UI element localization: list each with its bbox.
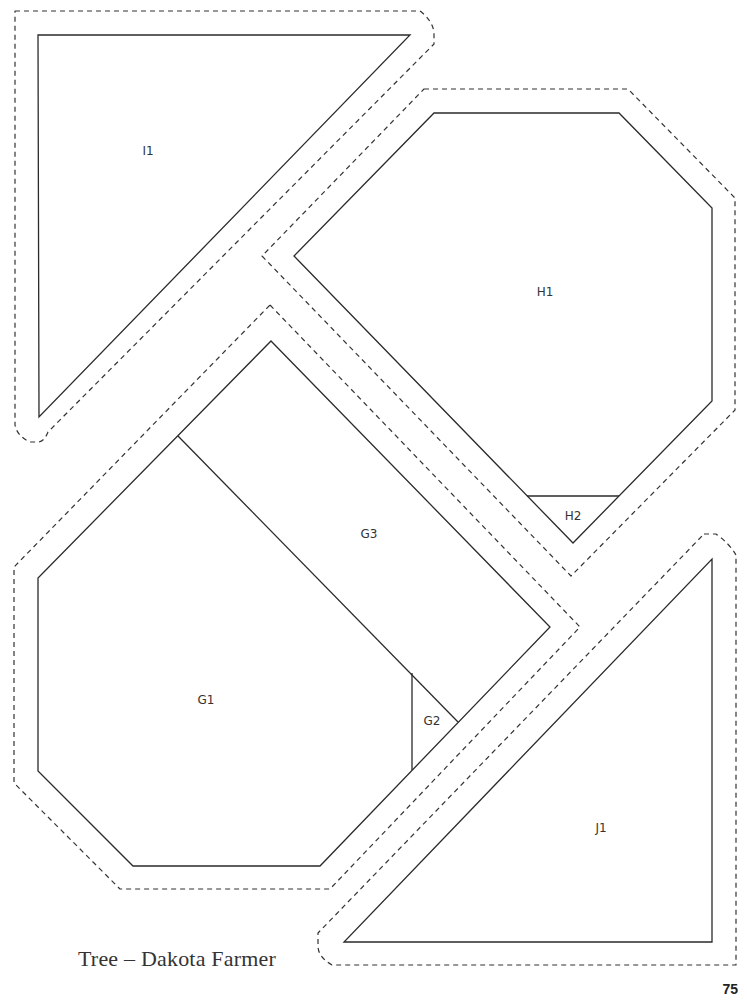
g-outline	[38, 341, 550, 866]
label-i1: I1	[142, 144, 153, 158]
label-j1: J1	[595, 821, 606, 835]
i1-outline	[38, 35, 410, 417]
label-h2: H2	[565, 509, 582, 523]
pattern-canvas	[0, 0, 747, 1001]
g-seam-allowance	[14, 305, 580, 889]
piece-g	[14, 305, 580, 889]
page-number: 75	[722, 981, 738, 997]
label-h1: H1	[537, 285, 554, 299]
g3-divider	[178, 436, 458, 722]
h1-outline	[294, 113, 712, 543]
piece-h	[262, 89, 735, 576]
label-g3: G3	[361, 527, 378, 541]
piece-i1	[15, 11, 434, 442]
piece-j1	[318, 534, 736, 965]
j1-outline	[344, 559, 712, 942]
page-title: Tree – Dakota Farmer	[78, 946, 276, 972]
label-g1: G1	[198, 693, 215, 707]
label-g2: G2	[424, 714, 441, 728]
h-seam-allowance	[262, 89, 735, 576]
